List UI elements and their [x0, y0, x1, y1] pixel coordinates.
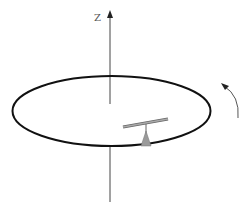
seesaw-pivot-triangle [141, 131, 151, 146]
z-axis-label: Z [94, 12, 101, 23]
disc-ellipse [13, 76, 211, 146]
rotating-disc-diagram: Z [0, 0, 246, 202]
z-axis: Z [94, 10, 113, 202]
rotation-arrow-curve [224, 86, 238, 118]
z-axis-arrowhead-icon [107, 10, 113, 18]
rotation-arrow [221, 83, 238, 118]
